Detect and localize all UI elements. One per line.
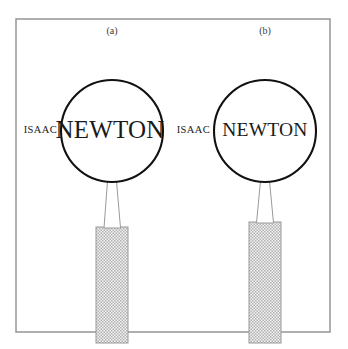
magnifier-figure-svg: (a) ISAAC NEWTON (b) ISAAC NEWTON — [0, 0, 348, 349]
panel-b: (b) ISAAC NEWTON — [177, 25, 316, 343]
panel-a-stem — [104, 181, 121, 228]
panel-b-newton-text: NEWTON — [222, 119, 307, 140]
panel-a-newton-text: NEWTON — [55, 116, 164, 143]
panel-b-handle — [249, 222, 281, 343]
panel-a-label: (a) — [106, 25, 117, 37]
panel-a: (a) ISAAC NEWTON — [24, 25, 165, 343]
panel-b-label: (b) — [259, 25, 271, 37]
panel-a-isaac-text: ISAAC — [24, 124, 57, 135]
panel-b-isaac-text: ISAAC — [177, 124, 210, 135]
panel-a-handle — [96, 227, 128, 343]
panel-b-stem — [257, 181, 274, 223]
figure-canvas: (a) ISAAC NEWTON (b) ISAAC NEWTON — [0, 0, 348, 349]
